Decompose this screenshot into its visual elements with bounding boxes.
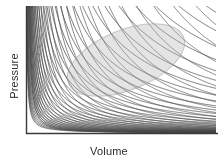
y-axis-label: Pressure [8, 36, 20, 116]
x-axis-label: Volume [0, 145, 218, 157]
pv-diagram-figure: Pressure Volume [0, 0, 218, 166]
pv-diagram-canvas [0, 0, 218, 166]
